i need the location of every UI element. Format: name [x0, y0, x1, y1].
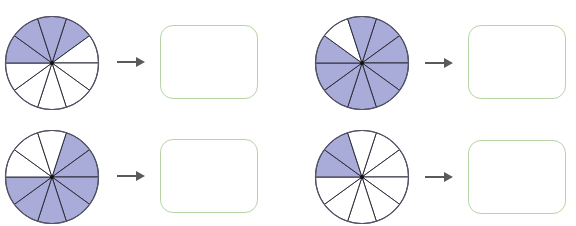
- arrow-right-icon: [116, 56, 148, 68]
- fraction-circle-3: [4, 129, 100, 225]
- center-dot: [50, 61, 54, 65]
- arrow-right-icon: [424, 57, 456, 69]
- answer-box-3[interactable]: [160, 139, 258, 213]
- center-dot: [360, 175, 364, 179]
- center-dot: [50, 175, 54, 179]
- center-dot: [360, 61, 364, 65]
- fraction-circle-4: [314, 129, 410, 225]
- arrow-right-icon: [424, 171, 456, 183]
- answer-box-1[interactable]: [160, 25, 258, 99]
- answer-box-2[interactable]: [468, 25, 566, 99]
- arrow-right-icon: [116, 170, 148, 182]
- answer-box-4[interactable]: [468, 140, 566, 214]
- fraction-circle-2: [314, 15, 410, 111]
- fraction-circle-1: [4, 15, 100, 111]
